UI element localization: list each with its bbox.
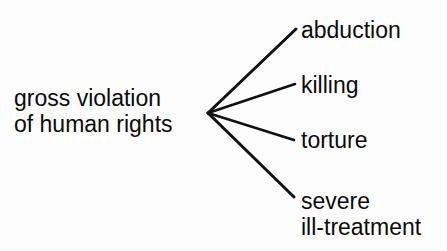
leaf-node-label-severe-ill-treatment: severeill-treatment <box>301 188 421 240</box>
leaf-node-label-abduction-line1: abduction <box>301 17 401 43</box>
leaf-node-label-killing-line1: killing <box>301 72 359 98</box>
root-node-label: gross violationof human rights <box>14 85 173 137</box>
leaf-node-label-abduction: abduction <box>301 17 401 43</box>
edge-line-abduction <box>208 29 296 113</box>
leaf-node-label-severe-ill-treatment-line2: ill-treatment <box>301 214 421 240</box>
root-node-label-line1: gross violation <box>14 85 161 111</box>
leaf-node-label-torture-line1: torture <box>301 127 367 153</box>
root-node-label-line2: of human rights <box>14 111 173 137</box>
leaf-node-label-torture: torture <box>301 127 367 153</box>
leaf-node-label-severe-ill-treatment-line1: severe <box>301 188 370 214</box>
diagram-canvas: gross violationof human rights abduction… <box>0 0 447 251</box>
leaf-node-label-killing: killing <box>301 72 359 98</box>
